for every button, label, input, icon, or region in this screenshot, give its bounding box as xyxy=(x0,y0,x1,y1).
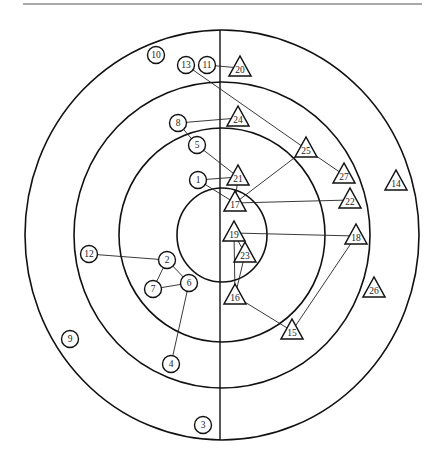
node-7[interactable]: 7 xyxy=(145,281,162,298)
node-label: 1 xyxy=(196,175,201,185)
node-label: 14 xyxy=(391,179,401,189)
node-15[interactable]: 15 xyxy=(281,319,303,339)
node-9[interactable]: 9 xyxy=(62,331,79,348)
nodes-layer: 1234567891011121314151617181920212223242… xyxy=(62,47,408,434)
edges-layer xyxy=(89,65,356,364)
node-label: 11 xyxy=(202,60,211,70)
node-label: 17 xyxy=(230,200,240,210)
node-label: 18 xyxy=(351,233,361,243)
node-26[interactable]: 26 xyxy=(363,277,385,297)
node-label: 2 xyxy=(165,255,170,265)
sociogram-diagram: 1234567891011121314151617181920212223242… xyxy=(0,0,438,459)
node-label: 5 xyxy=(195,140,200,150)
node-1[interactable]: 1 xyxy=(190,172,207,189)
node-label: 19 xyxy=(229,230,239,240)
node-5[interactable]: 5 xyxy=(189,137,206,154)
node-label: 9 xyxy=(68,334,73,344)
node-label: 23 xyxy=(240,251,250,261)
node-13[interactable]: 13 xyxy=(178,57,195,74)
node-25[interactable]: 25 xyxy=(295,137,317,157)
ring-ring-2 xyxy=(119,128,325,342)
node-label: 27 xyxy=(339,172,349,182)
node-20[interactable]: 20 xyxy=(229,56,251,76)
node-label: 20 xyxy=(235,65,245,75)
node-label: 22 xyxy=(345,197,355,207)
node-label: 16 xyxy=(230,293,240,303)
node-label: 21 xyxy=(233,174,243,184)
node-8[interactable]: 8 xyxy=(170,115,187,132)
node-label: 8 xyxy=(176,118,181,128)
node-16[interactable]: 16 xyxy=(224,284,246,304)
node-10[interactable]: 10 xyxy=(148,47,165,64)
node-4[interactable]: 4 xyxy=(163,356,180,373)
edge-6-4 xyxy=(171,283,189,364)
node-label: 15 xyxy=(287,328,297,338)
node-11[interactable]: 11 xyxy=(199,57,216,74)
edge-13-25 xyxy=(186,65,306,149)
node-24[interactable]: 24 xyxy=(227,106,249,126)
edge-12-2 xyxy=(89,254,167,260)
node-22[interactable]: 22 xyxy=(339,188,361,208)
node-14[interactable]: 14 xyxy=(385,170,407,190)
node-3[interactable]: 3 xyxy=(195,417,212,434)
node-label: 12 xyxy=(84,249,94,259)
node-label: 26 xyxy=(369,286,379,296)
node-19[interactable]: 19 xyxy=(223,221,245,241)
node-label: 10 xyxy=(151,50,161,60)
node-6[interactable]: 6 xyxy=(181,275,198,292)
node-label: 24 xyxy=(233,115,243,125)
node-12[interactable]: 12 xyxy=(81,246,98,263)
node-label: 4 xyxy=(169,359,174,369)
node-label: 13 xyxy=(181,60,191,70)
node-label: 7 xyxy=(151,284,156,294)
node-21[interactable]: 21 xyxy=(227,165,249,185)
node-label: 25 xyxy=(301,146,311,156)
node-18[interactable]: 18 xyxy=(345,224,367,244)
node-label: 6 xyxy=(187,278,192,288)
node-2[interactable]: 2 xyxy=(159,252,176,269)
node-27[interactable]: 27 xyxy=(333,163,355,183)
edge-19-18 xyxy=(234,233,356,236)
node-label: 3 xyxy=(201,420,206,430)
node-23[interactable]: 23 xyxy=(234,242,256,262)
